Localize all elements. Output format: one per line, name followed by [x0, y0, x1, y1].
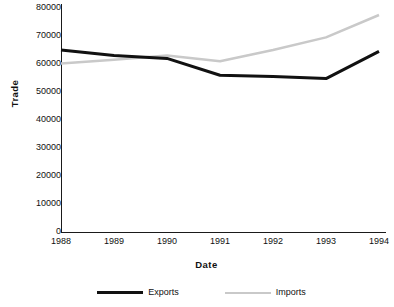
chart-legend: Exports Imports: [0, 288, 387, 297]
legend-item-exports: Exports: [97, 288, 179, 297]
legend-label-exports: Exports: [148, 288, 179, 297]
legend-label-imports: Imports: [276, 288, 306, 297]
legend-swatch-exports: [97, 291, 143, 294]
legend-item-imports: Imports: [225, 288, 306, 297]
series-line-exports: [61, 50, 379, 79]
legend-swatch-imports: [225, 292, 271, 294]
